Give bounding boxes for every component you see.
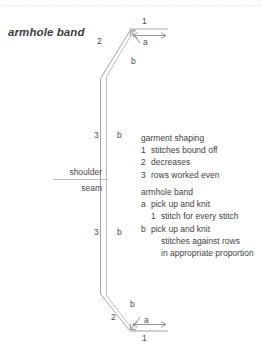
annotation-top-edge: 1 bbox=[142, 17, 147, 26]
legend-item: 1 stitches bound off bbox=[141, 145, 220, 157]
legend-key: 2 bbox=[141, 157, 151, 167]
armhole-band-outline bbox=[107, 30, 136, 333]
annotation-bottom-edge: 1 bbox=[142, 334, 147, 343]
annotation-bottom-arrow: a bbox=[144, 316, 149, 325]
legend-text: in appropriate proportion bbox=[161, 248, 254, 258]
annotation-top-diagonal: 2 bbox=[97, 37, 102, 46]
legend-item: a pick up and knit bbox=[141, 199, 254, 211]
annotation-upper-rows: 3 bbox=[94, 131, 99, 140]
annotation-top-band: b bbox=[131, 57, 136, 66]
legend-text: stitches bound off bbox=[151, 145, 220, 155]
legend-item: 3 rows worked even bbox=[141, 170, 220, 182]
annotation-top-arrow: a bbox=[143, 38, 148, 47]
legend-key: 1 bbox=[151, 211, 161, 221]
diagram-vector-layer bbox=[0, 0, 263, 348]
legend-key: 1 bbox=[141, 145, 151, 155]
legend-text: stitch for every stitch bbox=[161, 211, 254, 221]
legend-item: in appropriate proportion bbox=[141, 248, 254, 260]
legend-text: pick up and knit bbox=[151, 224, 254, 234]
armhole-band-diagram: armhole band 1 a 2 b 3 b 3 b b 2 a 1 sho… bbox=[0, 0, 263, 348]
bottom-pickup-arrow bbox=[130, 317, 140, 330]
armhole-band-legend: armhole band a pick up and knit 1 stitch… bbox=[141, 187, 254, 260]
annotation-upper-band: b bbox=[117, 131, 122, 140]
garment-shaping-heading: garment shaping bbox=[141, 133, 220, 145]
legend-key: b bbox=[141, 224, 151, 234]
label-shoulder: shoulder bbox=[54, 168, 102, 177]
label-seam: seam bbox=[54, 184, 102, 193]
page-title: armhole band bbox=[8, 27, 85, 39]
armhole-band-heading: armhole band bbox=[141, 187, 254, 199]
bottom-dimension-arrow bbox=[133, 322, 166, 328]
legend-text: pick up and knit bbox=[151, 199, 254, 209]
annotation-bottom-diagonal: 2 bbox=[111, 313, 116, 322]
legend-item: stitches against rows bbox=[141, 236, 254, 248]
garment-outline bbox=[101, 32, 130, 331]
annotation-bottom-band: b bbox=[130, 300, 135, 309]
legend-text: stitches against rows bbox=[161, 236, 254, 246]
top-pickup-arrow bbox=[130, 30, 140, 43]
annotation-lower-band: b bbox=[117, 228, 122, 237]
garment-shaping-legend: garment shaping 1 stitches bound off 2 d… bbox=[141, 133, 220, 182]
legend-key: 3 bbox=[141, 170, 151, 180]
annotation-lower-rows: 3 bbox=[94, 228, 99, 237]
top-dimension-arrow bbox=[133, 33, 166, 39]
legend-text: decreases bbox=[151, 157, 220, 167]
legend-key: a bbox=[141, 199, 151, 209]
legend-text: rows worked even bbox=[151, 170, 220, 180]
legend-item: b pick up and knit bbox=[141, 224, 254, 236]
legend-item: 2 decreases bbox=[141, 157, 220, 169]
legend-item: 1 stitch for every stitch bbox=[141, 211, 254, 223]
